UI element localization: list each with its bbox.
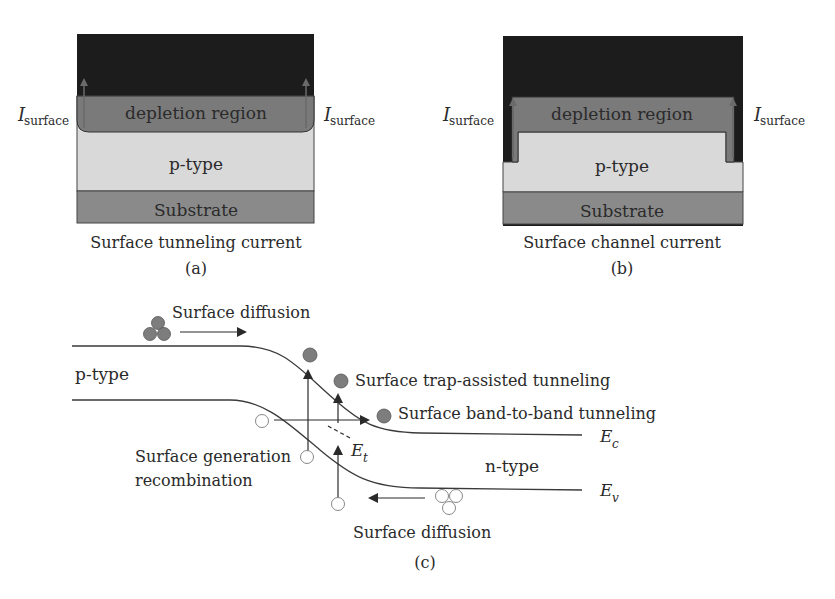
surface-diffusion-top: Surface diffusion <box>172 303 310 322</box>
gen-recomb-line2: recombination <box>135 471 253 490</box>
panel-b: depletion region p-type Substrate I surf… <box>442 36 805 278</box>
current-label-left-sub: surface <box>449 114 494 128</box>
depletion-label: depletion region <box>551 104 693 124</box>
hole <box>301 451 314 464</box>
panel-c: Surface diffusion p-type Surface trap-as… <box>72 303 656 572</box>
ec-sub: c <box>612 437 619 451</box>
electron <box>144 328 157 341</box>
ev-sub: v <box>612 491 619 505</box>
depletion-label: depletion region <box>125 103 267 123</box>
current-label-right-sub: surface <box>760 114 805 128</box>
current-label-right-sub: surface <box>330 114 375 128</box>
gen-recomb-line1: Surface generation <box>135 447 291 466</box>
trap-level <box>328 426 352 439</box>
ptype-label: p-type <box>595 156 649 176</box>
panel-a: depletion region p-type Substrate I surf… <box>17 34 375 278</box>
ec-label: E <box>599 426 613 446</box>
figure: depletion region p-type Substrate I surf… <box>0 0 835 599</box>
current-label-left-sub: surface <box>24 114 69 128</box>
ev-label: E <box>599 480 613 500</box>
trap-level-label: E <box>350 440 364 460</box>
electron <box>303 348 317 362</box>
panel-id-a: (a) <box>185 259 207 278</box>
hole <box>443 502 456 515</box>
electron <box>377 409 391 423</box>
hole <box>332 498 345 511</box>
trap-assisted-label: Surface trap-assisted tunneling <box>355 371 610 390</box>
panel-id-c: (c) <box>414 553 435 572</box>
substrate-label: Substrate <box>154 200 238 220</box>
panel-id-b: (b) <box>611 259 634 278</box>
ntype-label: n-type <box>485 456 539 476</box>
band-to-band-label: Surface band-to-band tunneling <box>398 404 656 423</box>
ptype-label: p-type <box>169 154 223 174</box>
caption-b: Surface channel current <box>523 233 721 252</box>
hole <box>436 490 449 503</box>
surface-diffusion-bottom: Surface diffusion <box>353 523 491 542</box>
ptype-label: p-type <box>75 364 129 384</box>
substrate-label: Substrate <box>580 201 664 221</box>
hole <box>450 490 463 503</box>
metal-layer <box>77 34 314 97</box>
caption-a: Surface tunneling current <box>90 233 302 252</box>
hole <box>256 415 269 428</box>
electron <box>158 328 171 341</box>
trap-level-sub: t <box>363 451 368 465</box>
electron <box>334 374 348 388</box>
